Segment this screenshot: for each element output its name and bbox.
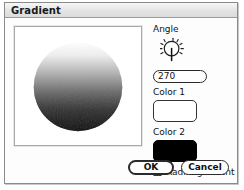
- dialog-title-bar[interactable]: Gradient: [5, 3, 237, 18]
- color2-swatch[interactable]: [153, 140, 197, 162]
- cancel-button[interactable]: Cancel: [181, 160, 229, 175]
- angle-dial-icon[interactable]: [160, 37, 186, 63]
- color2-label: Color 2: [153, 127, 232, 138]
- angle-dial-wrapper: [152, 37, 232, 63]
- angle-input[interactable]: [153, 70, 207, 83]
- dialog-title: Gradient: [11, 4, 61, 17]
- dialog-button-row: OK Cancel: [128, 160, 229, 175]
- color1-label: Color 1: [153, 87, 232, 98]
- ok-button[interactable]: OK: [128, 160, 174, 175]
- gradient-preview-canvas: [15, 27, 141, 145]
- color1-swatch[interactable]: [153, 100, 197, 122]
- gradient-preview: [14, 26, 142, 146]
- dialog-body: Angle: [5, 18, 237, 183]
- controls-column: Angle: [152, 24, 232, 177]
- gradient-dialog: Gradient: [4, 2, 238, 184]
- angle-label: Angle: [153, 24, 232, 35]
